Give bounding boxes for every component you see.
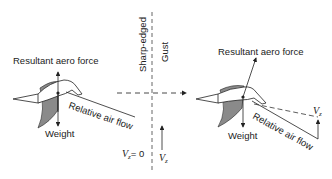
left-weight-label: Weight bbox=[45, 128, 75, 139]
left-force-label: Resultant aero force bbox=[13, 55, 99, 66]
vz-label: Vz bbox=[159, 152, 168, 165]
right-vz-label: Vz bbox=[313, 105, 322, 118]
right-force-label: Resultant aero force bbox=[218, 46, 304, 57]
sharp-edged-gust-diagram: Resultant aero force Weight Relative air… bbox=[0, 0, 332, 179]
right-airflow-label: Relative air flow bbox=[251, 110, 315, 152]
vz-zero-label: Vz= 0 bbox=[122, 148, 144, 161]
gust-label-line2: Gust bbox=[159, 42, 170, 62]
gust-label-line1: Sharp-edged bbox=[137, 17, 148, 72]
right-weight-label: Weight bbox=[228, 130, 258, 141]
diagram-canvas: Resultant aero force Weight Relative air… bbox=[0, 0, 332, 179]
